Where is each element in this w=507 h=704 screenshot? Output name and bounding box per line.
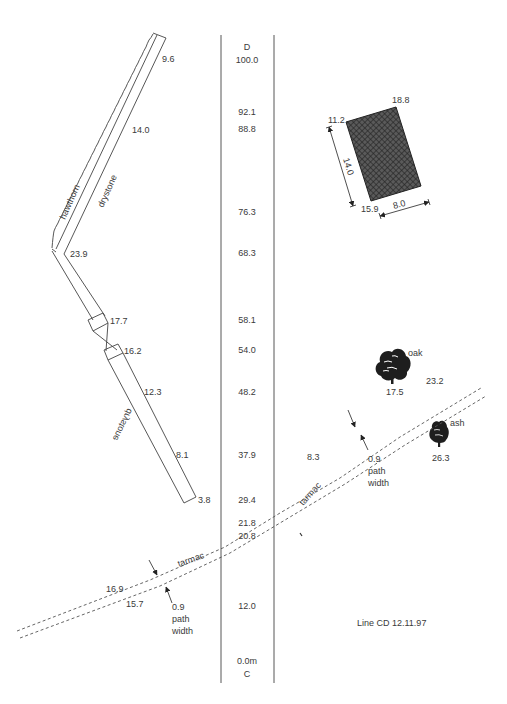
oak-offset-17-5: 17.5 — [386, 387, 404, 397]
wall-segment-left-edge — [52, 251, 93, 320]
building-corner-18-8: 18.8 — [392, 95, 410, 105]
lower-wall-right-edge — [123, 353, 196, 497]
gap-cross-1 — [93, 331, 117, 350]
path-offset-23-2: 23.2 — [426, 376, 444, 386]
survey-diagram: D 100.0 92.1 88.8 76.3 68.3 58.1 54.0 48… — [0, 0, 507, 704]
ash-tree-icon — [429, 421, 448, 447]
chainage-21-8: 21.8 — [238, 518, 256, 528]
path-upper-edge — [17, 388, 481, 631]
path-width-arrow-upper-1 — [348, 410, 355, 427]
oak-label: oak — [408, 348, 423, 358]
survey-title: Line CD 12.11.97 — [357, 618, 426, 628]
wall-offset-17-7: 17.7 — [110, 316, 128, 326]
survey-mark — [300, 533, 302, 536]
line-end-label-d: D — [244, 42, 251, 52]
wall-top-cap — [153, 33, 166, 38]
building-corner-11-2: 11.2 — [328, 115, 345, 125]
hedge-inner-edge — [56, 35, 157, 249]
path-width-line1-2: path — [172, 614, 190, 624]
wall-offset-14-0: 14.0 — [132, 125, 150, 135]
drystone-wall-outer-edge — [64, 38, 166, 254]
lower-wall-end-cap — [184, 497, 196, 503]
chainage-37-9: 37.9 — [238, 450, 256, 460]
path-width-arrow-lower-2 — [166, 587, 172, 603]
wall-offset-8-1: 8.1 — [176, 450, 189, 460]
chainage-29-4: 29.4 — [238, 495, 256, 505]
path-offset-15-7: 15.7 — [126, 599, 144, 609]
ash-offset-26-3: 26.3 — [432, 453, 450, 463]
ash-label: ash — [450, 418, 465, 428]
chainage-68-3: 68.3 — [238, 248, 256, 258]
wall-offset-12-3: 12.3 — [144, 387, 162, 397]
lower-wall — [52, 251, 196, 503]
path-width-arrow-upper-2 — [149, 560, 157, 575]
chainage-54-0: 54.0 — [238, 345, 256, 355]
chainage-58-1: 58.1 — [238, 315, 256, 325]
tarmac-label-mid: tarmac — [297, 480, 323, 508]
oak-tree-icon — [376, 349, 411, 384]
line-start-label-c: C — [244, 669, 251, 679]
chainage-48-2: 48.2 — [238, 387, 256, 397]
chainage-76-3: 76.3 — [238, 207, 256, 217]
building-corner-15-9: 15.9 — [361, 204, 379, 214]
wall-offset-9-6: 9.6 — [162, 54, 175, 64]
wall-segment-right-edge — [64, 254, 105, 316]
chainage-100: 100.0 — [236, 55, 259, 65]
path-width-arrow-lower-1 — [361, 435, 368, 450]
upper-wall — [52, 33, 166, 254]
path-offset-16-9: 16.9 — [106, 584, 124, 594]
building-footprint — [346, 107, 421, 201]
path-width-line1-1: path — [368, 466, 386, 476]
gap-pillar-bottom — [104, 344, 123, 360]
chainage-0-0: 0.0m — [237, 656, 257, 666]
chainage-92-1: 92.1 — [238, 107, 256, 117]
path-width-line2-1: width — [367, 478, 389, 488]
path-width-value-2: 0.9 — [172, 602, 185, 612]
chainage-88-8: 88.8 — [238, 124, 256, 134]
wall-offset-23-9: 23.9 — [70, 249, 88, 259]
wall-offset-3-8: 3.8 — [198, 495, 211, 505]
gap-cross-2 — [106, 323, 108, 351]
chainage-12-0: 12.0 — [238, 601, 256, 611]
drystone-lower-label: drystone — [110, 406, 134, 441]
chainage-labels: D 100.0 92.1 88.8 76.3 68.3 58.1 54.0 48… — [236, 42, 259, 679]
path-offset-8-3: 8.3 — [307, 452, 320, 462]
path-width-value-1: 0.9 — [368, 454, 381, 464]
path-width-line2-2: width — [171, 626, 193, 636]
wall-offset-16-2: 16.2 — [124, 346, 142, 356]
